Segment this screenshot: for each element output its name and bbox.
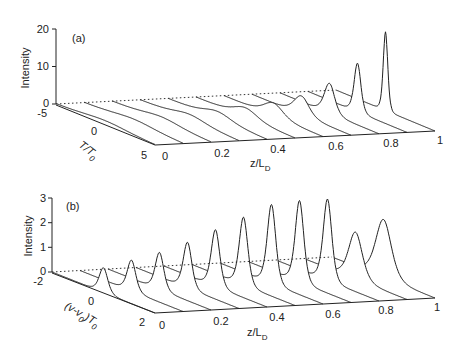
panel-b-xaxis-title: (v-v0)T0 (61, 299, 102, 332)
curve-mask (248, 201, 351, 303)
ytick-0.4: 0.4 (269, 311, 284, 323)
ytick-0.6: 0.6 (328, 140, 343, 152)
panel-a: 20 10 0 (a) Intensity -5 0 5 T/T0 0 0.2 … (19, 23, 443, 173)
ztick-20: 20 (37, 23, 49, 35)
curve-mask (164, 230, 267, 307)
ztick-3: 3 (40, 192, 46, 204)
ztick-1: 1 (40, 241, 46, 253)
ztick-10: 10 (37, 60, 49, 72)
panel-b-yaxis-title: z/LD (247, 326, 268, 342)
xaxis-title-main: T/T0 (74, 138, 101, 164)
panel-a-xaxis-title: T/T0 (74, 138, 101, 164)
ytick-0.4: 0.4 (270, 143, 285, 155)
waterfall-figure: 20 10 0 (a) Intensity -5 0 5 T/T0 0 0.2 … (0, 0, 461, 357)
panel-a-zaxis-title: Intensity (19, 47, 31, 88)
ytick-0: 0 (162, 150, 168, 162)
curve-mask (336, 32, 435, 131)
xtick-5: 5 (141, 149, 147, 161)
xtick-2: 2 (139, 316, 145, 328)
ytick-0.2: 0.2 (214, 147, 229, 159)
panel-b: 3 2 1 0 (b) Intensity -2 0 2 (v-v0)T0 0 … (22, 192, 440, 342)
panel-a-label: (a) (72, 32, 85, 44)
xaxis-title-main: (v-v0)T0 (61, 299, 102, 332)
panel-a-yaxis-title: z/LD (250, 157, 271, 173)
panel-b-zaxis-title: Intensity (22, 215, 34, 256)
xtick-neg2: -2 (33, 275, 43, 287)
xtick-0: 0 (91, 125, 97, 137)
ytick-0.8: 0.8 (383, 137, 398, 149)
ytick-1: 1 (437, 134, 443, 146)
ytick-0: 0 (159, 319, 165, 331)
panel-b-curves (52, 199, 435, 313)
ytick-0.2: 0.2 (213, 315, 228, 327)
curve-mask (276, 199, 379, 301)
panel-b-label: (b) (66, 200, 79, 212)
ztick-2: 2 (40, 216, 46, 228)
xtick-0: 0 (88, 295, 94, 307)
curve-mask (220, 205, 323, 305)
ytick-0.8: 0.8 (378, 304, 393, 316)
ytick-1: 1 (434, 301, 440, 313)
ytick-0.6: 0.6 (325, 308, 340, 320)
xtick-neg5: -5 (37, 107, 47, 119)
